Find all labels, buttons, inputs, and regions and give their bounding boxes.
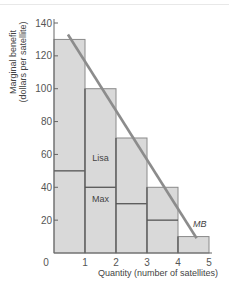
bar-3 [116,138,147,253]
y-tick-label: 80 [41,116,53,127]
marginal-benefit-chart: 20406080100120140012345 MB Lisa Max Quan… [0,0,229,290]
lisa-label: Lisa [92,153,109,163]
y-tick-label: 120 [35,50,52,61]
x-tick-label: 0 [43,257,49,268]
y-axis-subtitle: (dollars per satellite) [18,21,28,102]
bar-5 [178,237,209,253]
y-tick-label: 20 [41,215,53,226]
max-label: Max [92,194,110,204]
y-tick-label: 60 [41,149,53,160]
x-tick-label: 3 [144,257,150,268]
x-tick-label: 5 [206,257,212,268]
y-tick-label: 100 [35,83,52,94]
x-tick-label: 2 [113,257,119,268]
y-tick-label: 40 [41,182,53,193]
bar-1 [54,39,85,253]
mb-label: MB [193,219,207,229]
x-tick-label: 4 [175,257,181,268]
bar-2 [85,89,116,253]
y-tick-label: 140 [35,18,52,29]
x-tick-label: 1 [82,257,88,268]
x-axis-title: Quantity (number of satellites) [98,268,218,278]
y-axis-title: Marginal benefit [8,29,18,94]
